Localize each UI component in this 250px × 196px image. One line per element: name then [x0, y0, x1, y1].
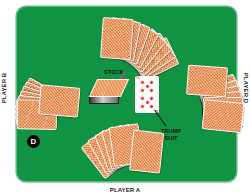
player-b-label: PLAYER B	[1, 68, 7, 108]
stock-pile	[89, 79, 127, 109]
trump-label-line2: SUIT	[161, 135, 181, 142]
diamond-icon	[140, 88, 144, 92]
trump-suit-label: TRUMP SUIT	[161, 128, 181, 142]
card-back	[129, 130, 164, 174]
diamond-icon	[149, 96, 153, 100]
diamond-icon	[145, 100, 149, 104]
trump-label-line1: TRUMP	[161, 128, 181, 135]
trump-card: 10 10	[135, 76, 159, 113]
diamond-icon	[140, 96, 144, 100]
stock-label: STOCK	[104, 69, 124, 75]
card-back	[201, 99, 244, 133]
diamond-icon	[140, 80, 144, 84]
diamond-icon	[145, 84, 149, 88]
dealer-button: D	[27, 135, 40, 148]
card-back	[186, 65, 228, 98]
card-back	[38, 84, 80, 117]
player-d-label: PLAYER D	[243, 68, 249, 108]
diamond-icon	[149, 80, 153, 84]
diamond-icon	[149, 88, 153, 92]
diamond-icon	[149, 104, 153, 108]
card-back	[100, 17, 134, 60]
stock-top-card	[89, 79, 129, 97]
diamond-icon	[140, 104, 144, 108]
card-rank-top: 10	[136, 77, 139, 80]
player-a-label: PLAYER A	[0, 187, 250, 193]
